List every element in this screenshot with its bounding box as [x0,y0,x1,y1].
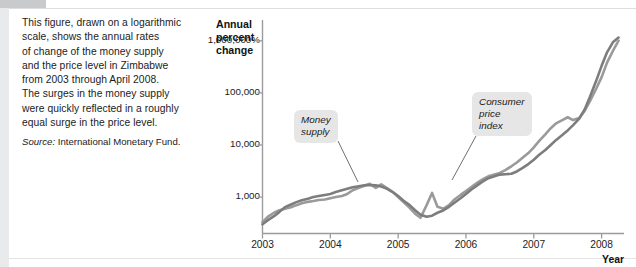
x-axis-tick-label: 2007 [509,239,559,250]
source-label: Source: [22,136,55,147]
annotation-line: price [479,108,525,120]
annotation-consumer-price-index: Consumer price index [472,92,532,136]
leader-line-money-supply [338,141,358,182]
chart: Annual percent change 1,000,000%100,0001… [200,10,636,260]
x-axis-tick-label: 2003 [238,239,288,250]
caption-line: and the price level in Zimbabwe [22,59,202,73]
leader-line-cpi [452,136,476,180]
x-axis-tick-label: 2008 [577,239,627,250]
annotation-leader-lines [338,136,476,182]
source-text: International Monetary Fund. [55,136,180,147]
page-edge-block [0,0,46,8]
panel-top-divider [9,8,636,9]
caption-line: were quickly reflected in a roughly [22,102,202,116]
caption-line: scale, shows the annual rates [22,30,202,44]
chart-plot [200,10,636,260]
page-edge-strip [0,0,9,267]
caption-source: Source: International Monetary Fund. [22,135,202,148]
caption-line: equal surge in the price level. [22,116,202,130]
annotation-line: Consumer [479,96,525,108]
annotation-line: supply [301,126,331,138]
caption-line: of change of the money supply [22,45,202,59]
x-axis-title: Year [602,254,624,265]
figure-caption: This figure, drawn on a logarithmic scal… [22,16,202,148]
caption-line: from 2003 through April 2008. [22,73,202,87]
figure-root: This figure, drawn on a logarithmic scal… [0,0,636,267]
caption-line: The surges in the money supply [22,87,202,101]
annotation-line: index [479,120,525,132]
annotation-money-supply: Money supply [294,110,338,143]
x-axis-tick-label: 2004 [305,239,355,250]
annotation-line: Money [301,114,331,126]
x-axis-tick-label: 2005 [373,239,423,250]
caption-line: This figure, drawn on a logarithmic [22,16,202,30]
x-axis-tick-label: 2006 [441,239,491,250]
